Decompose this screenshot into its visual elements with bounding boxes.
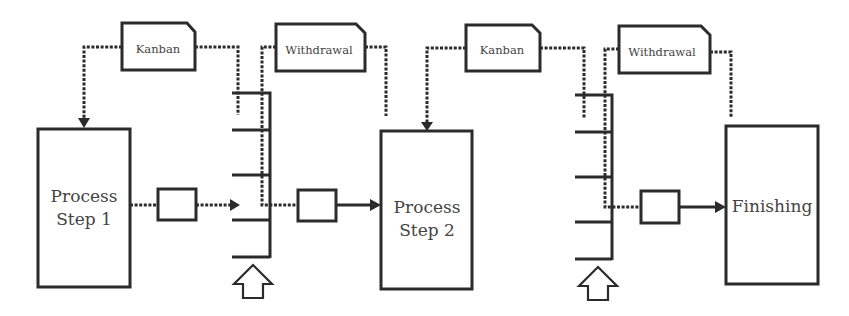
kanban-card-2: Kanban [466, 25, 540, 71]
kanban-card-1: Kanban [122, 23, 195, 70]
process-step-1: Process Step 1 [38, 129, 130, 287]
wip-box-3 [641, 191, 679, 223]
process-step-1-label-line-2: Step 1 [56, 209, 112, 229]
kanban-card-1-label: Kanban [136, 42, 181, 56]
withdrawal-card-1: Withdrawal [276, 24, 365, 71]
arrow-down-icon [78, 118, 90, 128]
supply-arrow-2-icon [579, 267, 617, 300]
process-step-2-label-line-2: Step 2 [399, 220, 455, 240]
withdrawal-1-to-step-2-line [365, 47, 386, 116]
withdrawal-card-2: Withdrawal [619, 26, 710, 73]
wip-box-2 [298, 190, 336, 221]
arrow-right-icon [230, 199, 240, 211]
kanban-2-to-step-2-line [427, 48, 466, 122]
finishing-process: Finishing [726, 126, 818, 284]
finishing-label: Finishing [732, 196, 813, 216]
withdrawal-card-2-label: Withdrawal [628, 45, 696, 59]
arrow-right-icon [715, 201, 726, 213]
kanban-1-to-step-1-line [84, 47, 122, 118]
arrow-right-icon [370, 199, 381, 211]
kanban-flow-diagram: Kanban Withdrawal Process Step 1 Kanban [0, 0, 849, 316]
process-step-1-label-line-1: Process [51, 186, 118, 206]
process-step-2-label-line-1: Process [394, 197, 461, 217]
kanban-2-to-buffer-2-line [540, 48, 584, 118]
process-step-2: Process Step 2 [381, 131, 472, 289]
withdrawal-2-to-finishing-line [710, 52, 731, 117]
buffer-rack-1 [232, 93, 270, 258]
wip-box-1 [158, 189, 196, 220]
kanban-card-2-label: Kanban [480, 43, 525, 57]
withdrawal-card-1-label: Withdrawal [285, 43, 353, 57]
supply-arrow-1-icon [234, 265, 272, 298]
kanban-1-to-buffer-1-line [195, 47, 238, 115]
